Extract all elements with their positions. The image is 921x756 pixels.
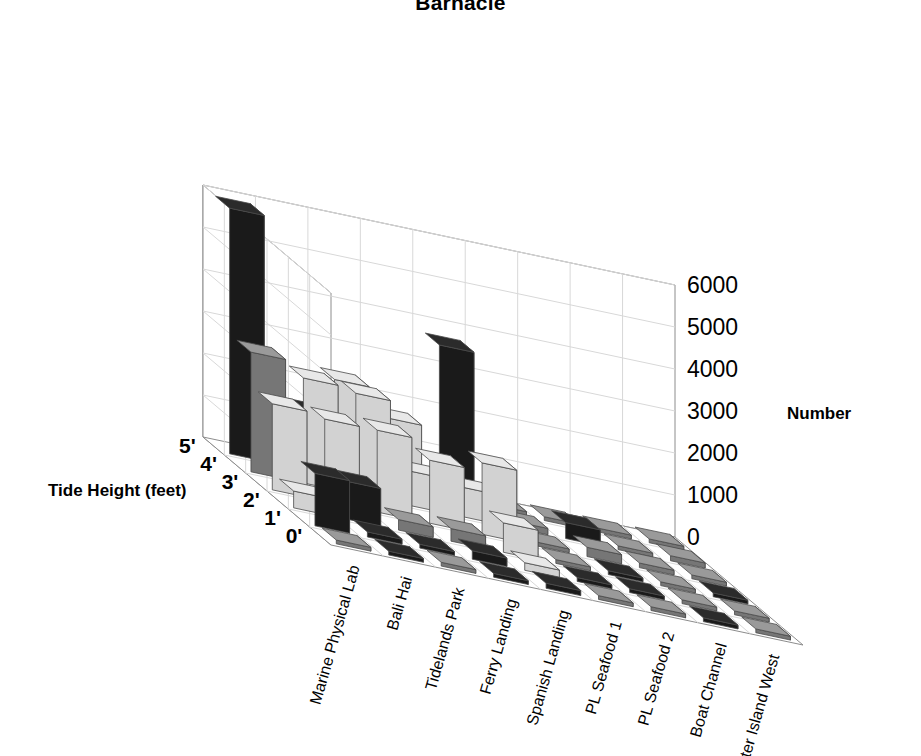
y-axis-tick: 0'	[286, 524, 303, 547]
z-axis-tick: 5000	[687, 314, 738, 340]
chart-canvas: Barnacle 0100020003000400050006000Number…	[0, 0, 921, 756]
y-axis-tick: 3'	[222, 470, 239, 493]
z-axis-tick: 3000	[687, 398, 738, 424]
z-axis-tick: 0	[687, 524, 700, 550]
x-axis-tick: Marine Physical Lab	[307, 563, 363, 706]
x-axis-tick: Boat Channel	[687, 641, 730, 739]
y-axis-tick: 5'	[179, 434, 196, 457]
x-axis-tick: Tidelands Park	[422, 584, 468, 692]
y-axis-title: Tide Height (feet)	[48, 481, 187, 500]
y-axis-tick: 4'	[200, 452, 217, 475]
z-axis-tick: 2000	[687, 440, 738, 466]
z-axis-tick: 4000	[687, 356, 738, 382]
x-axis-tick: Spanish Landing	[523, 608, 572, 727]
z-axis-tick: 1000	[687, 482, 738, 508]
y-axis-tick: 1'	[264, 506, 281, 529]
z-axis-tick: 6000	[687, 272, 738, 298]
bar-chart-3d: 0100020003000400050006000Number5'4'3'2'1…	[0, 0, 921, 756]
x-axis-tick: PL Seafood 1	[582, 619, 625, 716]
z-axis: 0100020003000400050006000Number	[687, 272, 852, 550]
x-axis-tick: Bali Hai	[384, 574, 416, 632]
z-axis-title: Number	[787, 404, 852, 423]
y-axis-tick: 2'	[243, 488, 260, 511]
x-axis-tick: Shelter Island West	[728, 652, 783, 756]
x-axis-tick: PL Seafood 2	[634, 630, 677, 727]
x-axis-tick: Ferry Landing	[477, 597, 521, 697]
